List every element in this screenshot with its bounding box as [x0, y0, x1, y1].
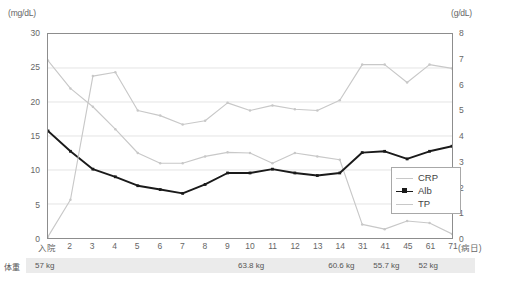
data-point-crp	[428, 222, 430, 224]
data-point-tp	[159, 114, 161, 116]
data-point-tp	[137, 109, 139, 111]
weight-value: 60.6 kg	[328, 261, 354, 270]
data-point-alb	[226, 172, 229, 175]
data-point-tp	[361, 63, 363, 65]
legend-label: TP	[418, 199, 430, 209]
data-point-crp	[361, 223, 363, 225]
data-point-tp	[69, 199, 71, 201]
data-point-tp	[428, 63, 430, 65]
data-point-tp	[204, 119, 206, 121]
legend-item-alb: Alb	[396, 184, 456, 197]
legend: CRPAlbTP	[391, 167, 461, 214]
data-point-alb	[48, 130, 49, 133]
right-axis-tick: 3	[459, 157, 481, 167]
data-point-crp	[159, 162, 161, 164]
right-axis-tick: 8	[459, 28, 481, 38]
data-point-tp	[181, 123, 183, 125]
data-point-tp	[271, 104, 273, 106]
legend-label: CRP	[418, 173, 438, 183]
data-point-crp	[406, 220, 408, 222]
data-point-crp	[316, 155, 318, 157]
x-axis-unit-label: (病日)	[458, 241, 482, 253]
lab-value-chart: (mg/dL) (g/dL) 302520151050 876543210 CR…	[0, 0, 509, 281]
weight-value: 55.7 kg	[373, 261, 399, 270]
data-point-crp	[69, 87, 71, 89]
data-point-tp	[114, 71, 116, 73]
legend-swatch-tp	[396, 199, 413, 208]
left-axis-tick: 5	[18, 200, 40, 210]
weight-value: 52 kg	[418, 261, 438, 270]
data-point-crp	[339, 159, 341, 161]
data-point-alb	[428, 150, 431, 153]
data-point-alb	[249, 172, 252, 175]
data-point-alb	[114, 175, 117, 178]
right-axis-tick: 2	[459, 183, 481, 193]
right-axis-unit-label: (g/dL)	[451, 8, 472, 18]
weight-row: 57 kg63.8 kg60.6 kg55.7 kg52 kg	[26, 258, 475, 273]
data-point-crp	[271, 162, 273, 164]
data-point-alb	[91, 168, 94, 171]
right-axis-tick: 4	[459, 131, 481, 141]
data-point-alb	[451, 145, 452, 148]
right-axis-tick: 5	[459, 105, 481, 115]
data-point-tp	[92, 75, 94, 77]
data-point-crp	[249, 152, 251, 154]
data-point-alb	[69, 150, 72, 153]
right-axis-tick: 6	[459, 80, 481, 90]
data-point-tp	[316, 109, 318, 111]
data-point-crp	[137, 152, 139, 154]
left-axis-tick: 15	[18, 131, 40, 141]
data-point-crp	[181, 162, 183, 164]
legend-swatch-crp	[396, 173, 413, 182]
left-axis-tick: 10	[18, 165, 40, 175]
data-point-crp	[92, 106, 94, 108]
x-axis-tick-labels: 入院2345678910111213143141456171(病日)	[0, 241, 509, 255]
legend-label: Alb	[418, 186, 432, 196]
data-point-alb	[271, 168, 274, 171]
legend-item-tp: TP	[396, 197, 456, 210]
data-point-crp	[114, 128, 116, 130]
data-point-alb	[383, 150, 386, 153]
data-point-crp	[226, 151, 228, 153]
legend-item-crp: CRP	[396, 171, 456, 184]
data-point-alb	[159, 188, 162, 191]
data-point-crp	[204, 155, 206, 157]
weight-row-title: 体重	[4, 261, 20, 272]
right-axis-tick: 1	[459, 208, 481, 218]
weight-value: 57 kg	[35, 261, 55, 270]
data-point-tp	[406, 81, 408, 83]
weight-value: 63.8 kg	[238, 261, 264, 270]
data-point-tp	[294, 108, 296, 110]
data-point-alb	[361, 151, 364, 154]
data-point-alb	[316, 174, 319, 177]
left-axis-tick: 20	[18, 97, 40, 107]
data-point-alb	[293, 172, 296, 175]
data-point-alb	[406, 158, 409, 161]
data-point-alb	[181, 192, 184, 195]
data-point-crp	[383, 228, 385, 230]
left-axis-tick: 30	[18, 28, 40, 38]
left-axis-unit-label: (mg/dL)	[8, 8, 36, 18]
data-point-tp	[339, 99, 341, 101]
data-point-tp	[249, 109, 251, 111]
data-point-alb	[338, 172, 341, 175]
right-axis-tick: 7	[459, 54, 481, 64]
legend-swatch-alb	[396, 186, 413, 195]
data-point-tp	[451, 67, 452, 69]
left-axis-tick: 25	[18, 62, 40, 72]
data-point-tp	[383, 63, 385, 65]
data-point-alb	[136, 184, 139, 187]
data-point-tp	[226, 102, 228, 104]
data-point-alb	[204, 183, 207, 186]
data-point-crp	[294, 152, 296, 154]
